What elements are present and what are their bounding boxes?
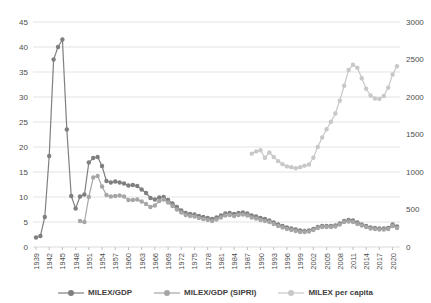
series-marker — [276, 159, 280, 163]
series-marker — [307, 162, 311, 166]
x-tick-label: 1966 — [151, 253, 160, 270]
x-tick-label: 1984 — [230, 253, 239, 270]
series-marker — [329, 225, 333, 229]
series-marker — [395, 226, 399, 230]
series-marker — [104, 179, 108, 183]
series-marker — [386, 227, 390, 231]
x-tick-label: 1981 — [217, 253, 226, 270]
x-tick-label: 1990 — [257, 253, 266, 270]
series-marker — [122, 181, 126, 185]
y-right-tick-label: 500 — [406, 205, 420, 214]
series-marker — [298, 165, 302, 169]
series-marker — [289, 165, 293, 169]
series-marker — [148, 205, 152, 209]
legend-label-milex-gdp-sipri: MILEX/GDP (SIPRI) — [184, 288, 256, 297]
series-marker — [342, 84, 346, 88]
series-marker — [272, 155, 276, 159]
series-marker — [148, 196, 152, 200]
series-marker — [34, 235, 38, 239]
series-marker — [201, 217, 205, 221]
series-marker — [276, 224, 280, 228]
series-marker — [346, 68, 350, 72]
milex-chart: 0510152025303540450500100015002000250030… — [0, 0, 431, 303]
y-left-tick-label: 45 — [19, 18, 28, 27]
series-marker — [166, 200, 170, 204]
x-tick-label: 1939 — [32, 253, 41, 270]
series-marker — [192, 214, 196, 218]
series-marker — [223, 213, 227, 217]
x-tick-label: 2020 — [389, 253, 398, 270]
series-marker — [175, 207, 179, 211]
series-marker — [104, 193, 108, 197]
series-marker — [153, 197, 157, 201]
series-marker — [109, 194, 113, 198]
series-marker — [60, 37, 64, 41]
series-marker — [109, 180, 113, 184]
series-marker — [38, 234, 42, 238]
series-marker — [153, 203, 157, 207]
series-marker — [377, 227, 381, 231]
series-marker — [51, 57, 55, 61]
y-left-tick-label: 20 — [19, 143, 28, 152]
series-marker — [307, 229, 311, 233]
x-tick-label: 1954 — [98, 253, 107, 270]
series-marker — [179, 210, 183, 214]
series-marker — [254, 149, 258, 153]
x-tick-label: 1999 — [296, 253, 305, 270]
series-line-2 — [252, 65, 397, 169]
legend-item-milex-gdp: MILEX/GDP — [58, 288, 132, 297]
x-tick-label: 1987 — [243, 253, 252, 270]
series-marker — [382, 227, 386, 231]
x-tick-label: 2008 — [336, 253, 345, 270]
series-marker — [250, 151, 254, 155]
series-marker — [395, 64, 399, 68]
x-tick-label: 1996 — [283, 253, 292, 270]
x-tick-label: 2002 — [309, 253, 318, 270]
series-line-0 — [36, 40, 397, 238]
series-marker — [386, 85, 390, 89]
x-tick-label: 1969 — [164, 253, 173, 270]
y-left-tick-label: 0 — [24, 243, 29, 252]
series-marker — [117, 180, 121, 184]
series-marker — [113, 179, 117, 183]
series-marker — [117, 193, 121, 197]
series-marker — [294, 166, 298, 170]
y-left-tick-label: 30 — [19, 93, 28, 102]
y-right-tick-label: 2000 — [406, 93, 424, 102]
x-tick-label: 1975 — [190, 253, 199, 270]
series-marker — [258, 218, 262, 222]
y-left-tick-label: 5 — [24, 218, 29, 227]
series-marker — [320, 225, 324, 229]
series-marker — [250, 215, 254, 219]
x-tick-label: 1951 — [85, 253, 94, 270]
x-tick-label: 1972 — [177, 253, 186, 270]
x-axis-labels: 1939194219451948195119541957196019631966… — [32, 247, 398, 270]
series-marker — [43, 215, 47, 219]
series-marker — [360, 223, 364, 227]
series-marker — [170, 204, 174, 208]
series-marker — [346, 219, 350, 223]
series-marker — [188, 214, 192, 218]
x-tick-label: 1963 — [138, 253, 147, 270]
legend-marker-milex-gdp-icon — [58, 289, 84, 297]
series-marker — [267, 150, 271, 154]
series-marker — [210, 219, 214, 223]
series-marker — [245, 213, 249, 217]
series-marker — [87, 195, 91, 199]
series-marker — [122, 194, 126, 198]
x-tick-label: 1960 — [124, 253, 133, 270]
x-tick-label: 1993 — [270, 253, 279, 270]
x-tick-label: 2017 — [375, 253, 384, 270]
series-marker — [100, 184, 104, 188]
series-marker — [139, 187, 143, 191]
legend-marker-milex-per-capita-icon — [278, 289, 304, 297]
legend-marker-milex-gdp-sipri-icon — [154, 289, 180, 297]
series-marker — [373, 96, 377, 100]
series-marker — [302, 163, 306, 167]
series-marker — [377, 97, 381, 101]
chart-canvas: 0510152025303540450500100015002000250030… — [0, 0, 431, 278]
series-marker — [197, 216, 201, 220]
series-marker — [355, 66, 359, 70]
series-marker — [82, 192, 86, 196]
series-marker — [73, 206, 77, 210]
